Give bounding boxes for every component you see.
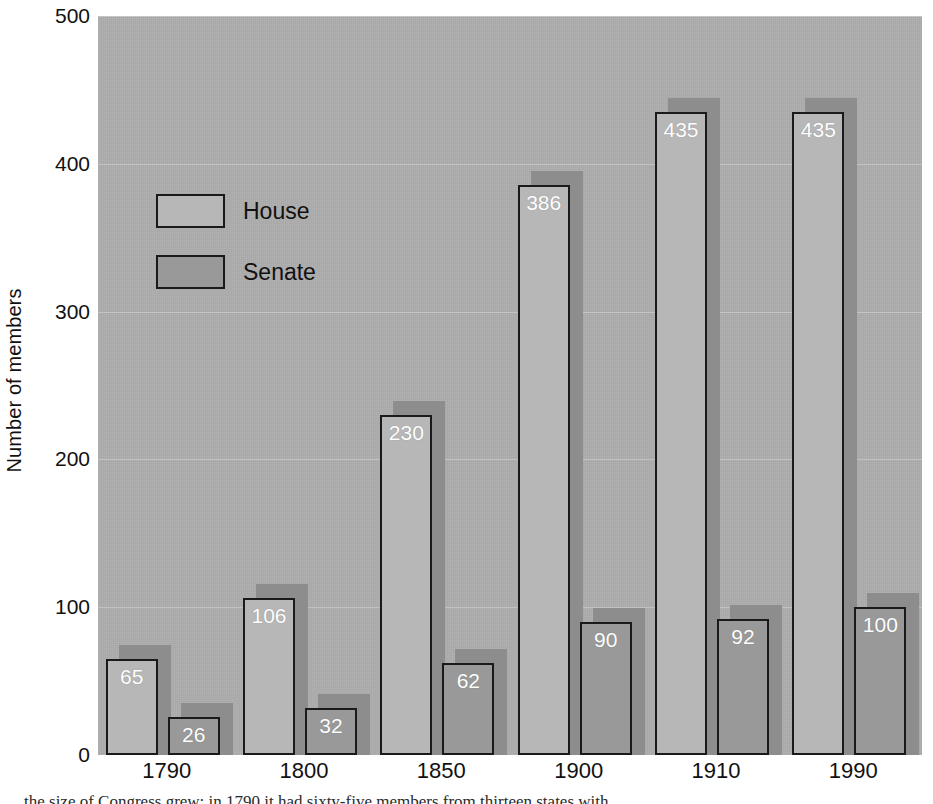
bar-senate: 100 — [854, 607, 906, 755]
bar-value-label: 90 — [580, 629, 632, 650]
y-axis-tick-labels: 0100200300400500 — [30, 0, 96, 804]
bar-senate: 32 — [305, 708, 357, 755]
legend-item-house: House — [156, 194, 316, 228]
y-axis-tick-label: 500 — [55, 4, 90, 28]
bar-house: 386 — [518, 185, 570, 756]
bar-rect-house — [792, 112, 844, 755]
bar-house: 65 — [106, 659, 158, 755]
legend-label-senate: Senate — [243, 259, 316, 286]
bar-house: 230 — [380, 415, 432, 755]
bar-value-label: 435 — [655, 119, 707, 140]
bar-value-label: 100 — [854, 614, 906, 635]
house-swatch-icon — [156, 194, 225, 228]
bar-value-label: 26 — [168, 724, 220, 745]
bar-senate: 62 — [442, 663, 494, 755]
bar-rect-house — [380, 415, 432, 755]
legend: House Senate — [156, 194, 316, 316]
bar-value-label: 435 — [792, 119, 844, 140]
legend-item-senate: Senate — [156, 255, 316, 289]
bar-rect-house — [655, 112, 707, 755]
bar-group: 38690 — [510, 16, 647, 755]
bar-chart-figure: Number of members 0100200300400500 House… — [0, 0, 933, 804]
bar-group: 23062 — [373, 16, 510, 755]
bar-senate: 26 — [168, 717, 220, 755]
bar-house: 106 — [243, 598, 295, 755]
x-axis-tick-label: 1990 — [829, 758, 878, 784]
bar-value-label: 92 — [717, 626, 769, 647]
bar-value-label: 32 — [305, 715, 357, 736]
y-axis-tick-label: 100 — [55, 595, 90, 619]
plot-area: House Senate 652610632230623869043592435… — [98, 16, 922, 755]
bar-value-label: 62 — [442, 670, 494, 691]
x-axis-tick-label: 1790 — [142, 758, 191, 784]
x-axis-tick-label: 1800 — [280, 758, 329, 784]
bar-senate: 92 — [717, 619, 769, 755]
bar-group: 435100 — [785, 16, 922, 755]
page-caption-partial: the size of Congress grew: in 1790 it ha… — [0, 793, 933, 804]
bar-group: 6526 — [98, 16, 235, 755]
senate-swatch-icon — [156, 255, 225, 289]
bar-value-label: 386 — [518, 192, 570, 213]
y-axis-title-text: Number of members — [4, 288, 27, 472]
y-axis-tick-label: 300 — [55, 300, 90, 324]
bar-value-label: 106 — [243, 605, 295, 626]
bar-house: 435 — [792, 112, 844, 755]
bar-value-label: 230 — [380, 422, 432, 443]
bar-group: 43592 — [647, 16, 784, 755]
bar-group: 10632 — [235, 16, 372, 755]
bar-value-label: 65 — [106, 666, 158, 687]
legend-label-house: House — [243, 198, 309, 225]
bar-senate: 90 — [580, 622, 632, 755]
x-axis-tick-label: 1900 — [554, 758, 603, 784]
y-axis-tick-label: 200 — [55, 447, 90, 471]
y-axis-title: Number of members — [0, 0, 30, 760]
bar-rect-house — [518, 185, 570, 756]
caption-text: the size of Congress grew: in 1790 it ha… — [0, 793, 933, 804]
bar-house: 435 — [655, 112, 707, 755]
x-axis-tick-label: 1850 — [417, 758, 466, 784]
y-axis-tick-label: 400 — [55, 152, 90, 176]
x-axis-tick-labels: 179018001850190019101990 — [98, 758, 922, 792]
y-axis-tick-label: 0 — [78, 743, 90, 767]
x-axis-tick-label: 1910 — [692, 758, 741, 784]
